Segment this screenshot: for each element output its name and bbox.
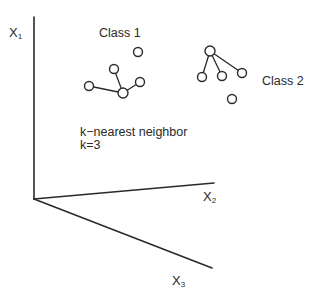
axis-label-x3: X3 — [172, 274, 185, 289]
axis-label-x3-text: X — [172, 273, 181, 288]
class-2-point-icon — [218, 72, 227, 81]
axis-label-x1-subscript: 1 — [18, 32, 22, 41]
data-points — [85, 46, 247, 104]
class-1-point-icon — [85, 82, 94, 91]
axis-label-x3-subscript: 3 — [181, 280, 185, 289]
axis-x2-line — [34, 183, 214, 199]
class-2-point-icon — [228, 95, 237, 104]
class-1-query-point-icon — [118, 88, 128, 98]
knn-annotation-k-value: k=3 — [80, 139, 187, 152]
class-2-label: Class 2 — [262, 75, 304, 88]
class-1-point-icon — [136, 78, 145, 87]
axis-x3-line — [34, 199, 212, 268]
axis-label-x2-text: X — [203, 189, 212, 204]
class-1-label: Class 1 — [99, 27, 141, 40]
knn-annotation: k−nearest neighbor k=3 — [80, 126, 187, 152]
axis-label-x2: X2 — [203, 190, 216, 205]
class-1-point-icon — [110, 65, 119, 74]
class-2-point-icon — [198, 73, 207, 82]
axis-label-x1: X1 — [9, 26, 22, 41]
axis-label-x1-text: X — [9, 25, 18, 40]
axis-label-x2-subscript: 2 — [212, 196, 216, 205]
class-2-point-icon — [238, 69, 247, 78]
class-1-point-icon — [134, 48, 143, 57]
class-2-query-point-icon — [205, 46, 215, 56]
